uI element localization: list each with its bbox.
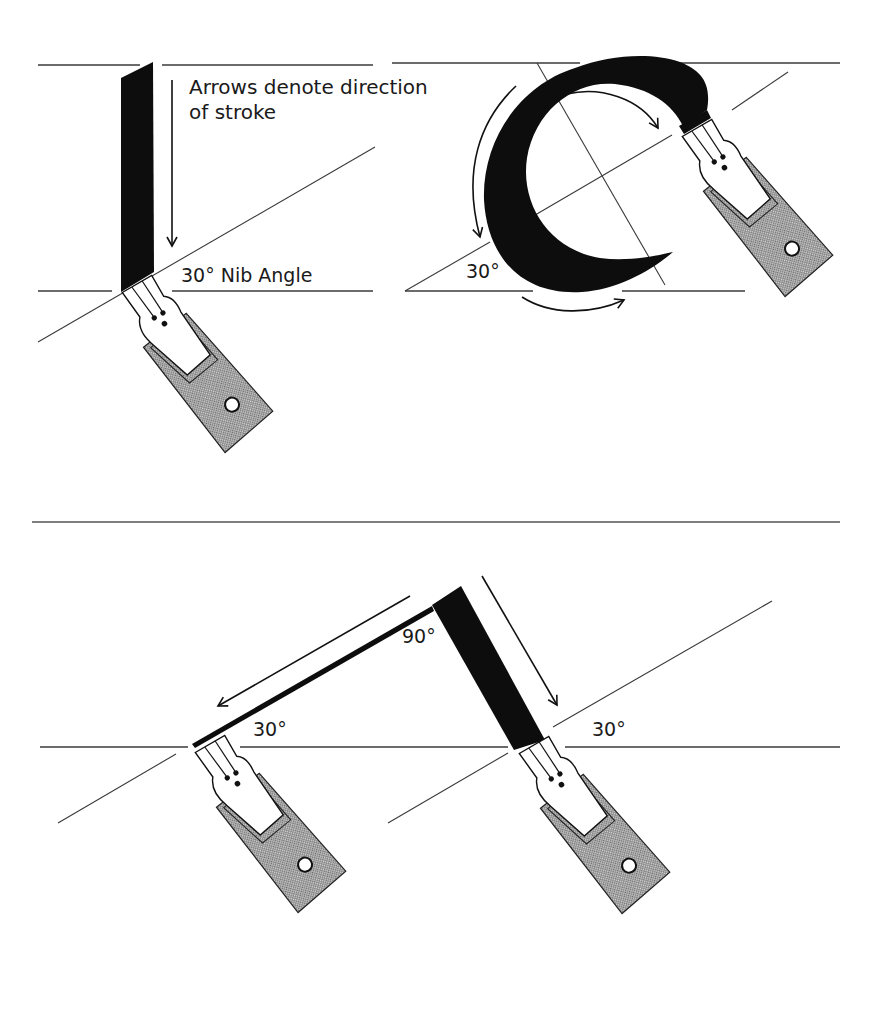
nib-angle-line: [553, 601, 772, 727]
nib-angle-line: [38, 147, 375, 342]
nib-angle-label: 30° Nib Angle: [181, 264, 312, 286]
left-angle-label: 30°: [253, 718, 287, 740]
top-panel: Arrows denote direction of stroke 30° Ni…: [38, 56, 840, 461]
hairline-stroke: [192, 606, 434, 748]
caption-line-1: Arrows denote direction: [189, 75, 428, 99]
circular-stroke-example: 30°: [405, 56, 839, 311]
calligraphy-diagram: Arrows denote direction of stroke 30° Ni…: [0, 0, 893, 1013]
pen-nib-icon: [511, 718, 675, 923]
pen-nib-icon: [187, 717, 351, 922]
direction-arrow-icon: [218, 596, 410, 706]
right-angle-label: 30°: [592, 718, 626, 740]
direction-arrow-icon: [522, 297, 624, 311]
nib-angle-line: [388, 753, 508, 823]
vertical-stroke: [121, 62, 154, 292]
direction-arrow-icon: [567, 92, 658, 128]
corner-angle-label: 90°: [402, 625, 436, 647]
pen-nib-icon: [114, 257, 278, 462]
pen-nib-icon: [674, 101, 838, 306]
thick-stroke: [432, 586, 545, 750]
angle-label: 30°: [466, 260, 500, 282]
crosshair-line: [732, 72, 788, 110]
nib-angle-line: [58, 754, 176, 823]
vertical-stroke-example: Arrows denote direction of stroke 30° Ni…: [38, 62, 428, 462]
caption-line-2: of stroke: [189, 100, 276, 124]
crosshair-line: [530, 135, 672, 218]
bottom-panel: 90° 30° 30°: [40, 576, 840, 923]
